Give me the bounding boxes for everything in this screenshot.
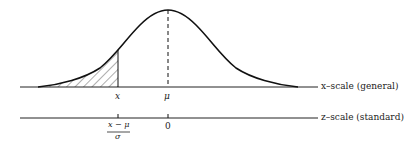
shaded-area <box>30 40 120 88</box>
x-scale-label: x–scale (general) <box>321 81 398 91</box>
normal-curve-diagram <box>0 0 410 149</box>
z-scale-label: z–scale (standard) <box>321 112 404 122</box>
z-fraction-numerator: x − μ <box>108 120 130 129</box>
z-fraction-denominator: σ <box>115 132 120 141</box>
z-zero-label: 0 <box>165 121 171 131</box>
x-tick-label: x <box>115 91 120 101</box>
mu-tick-label: μ <box>164 91 170 101</box>
